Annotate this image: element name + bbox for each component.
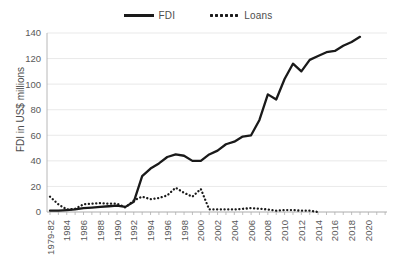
svg-text:2012: 2012	[296, 220, 307, 241]
svg-text:2006: 2006	[246, 220, 257, 241]
svg-text:100: 100	[25, 79, 41, 90]
svg-text:1990: 1990	[112, 220, 123, 241]
svg-text:20: 20	[30, 181, 41, 192]
svg-text:1994: 1994	[145, 220, 156, 241]
svg-text:60: 60	[30, 130, 41, 141]
svg-text:1979-82: 1979-82	[45, 220, 56, 255]
top-edge-crop	[0, 0, 396, 3]
svg-text:2016: 2016	[329, 220, 340, 241]
svg-text:40: 40	[30, 155, 41, 166]
svg-text:0: 0	[36, 206, 41, 217]
svg-text:140: 140	[25, 27, 41, 38]
svg-text:80: 80	[30, 104, 41, 115]
svg-text:2010: 2010	[279, 220, 290, 241]
svg-text:2020: 2020	[363, 220, 374, 241]
fdi-loans-line-chart: FDI Loans FDI in US$ millions 0204060801…	[0, 0, 396, 259]
svg-text:1988: 1988	[95, 220, 106, 241]
x-axis-tick-labels: 1979-82198419861988199019921994199619982…	[45, 220, 374, 255]
svg-text:1998: 1998	[179, 220, 190, 241]
svg-text:2000: 2000	[195, 220, 206, 241]
svg-text:1992: 1992	[128, 220, 139, 241]
svg-text:2008: 2008	[262, 220, 273, 241]
plot-area: 020406080100120140 1979-8219841986198819…	[0, 0, 396, 259]
svg-text:120: 120	[25, 53, 41, 64]
svg-text:1984: 1984	[61, 220, 72, 241]
svg-text:2002: 2002	[212, 220, 223, 241]
svg-text:2004: 2004	[229, 220, 240, 241]
y-axis-tick-labels: 020406080100120140	[25, 27, 41, 217]
svg-text:1986: 1986	[78, 220, 89, 241]
gridlines	[47, 33, 387, 212]
svg-text:2018: 2018	[346, 220, 357, 241]
svg-text:2014: 2014	[313, 220, 324, 241]
svg-text:1996: 1996	[162, 220, 173, 241]
series-line-fdi	[50, 37, 360, 211]
